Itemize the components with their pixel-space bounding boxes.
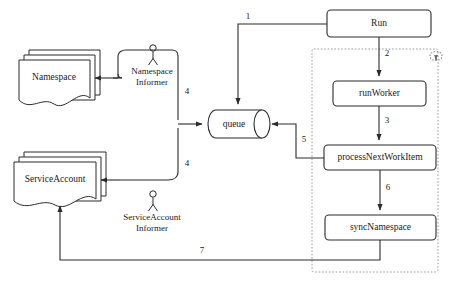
edge-4-serviceaccount-label: 4 [185, 158, 190, 168]
queue-label: queue [223, 119, 246, 129]
loop-arrow-icon [430, 52, 442, 61]
edge-2-label: 2 [385, 48, 390, 58]
flow-diagram: Namespace ServiceAccount Namespace Infor… [0, 0, 454, 283]
serviceaccount-informer: ServiceAccount Informer [120, 128, 181, 233]
edge-4-namespace-label: 4 [185, 86, 190, 96]
syncnamespace-label: syncNamespace [350, 222, 411, 232]
namespace-store: Namespace [19, 50, 100, 106]
runworker-label: runWorker [359, 88, 401, 98]
run: Run [327, 10, 431, 37]
namespace-informer-label-line1: Namespace [131, 66, 172, 76]
namespace-informer-actor-icon [149, 45, 158, 65]
diagram-canvas: Namespace ServiceAccount Namespace Infor… [0, 0, 454, 283]
serviceaccount-informer-label-line2: Informer [136, 223, 168, 233]
namespace-informer-label-line2: Informer [136, 77, 168, 87]
serviceaccount-store-label: ServiceAccount [25, 174, 86, 184]
edge-6-label: 6 [386, 182, 391, 192]
syncnamespace: syncNamespace [325, 215, 436, 240]
namespace-informer: Namespace Informer [113, 45, 178, 120]
edge-3-label: 3 [385, 115, 390, 125]
processnextworkitem-label: processNextWorkItem [337, 152, 423, 162]
processnextworkitem: processNextWorkItem [324, 145, 436, 170]
edge-1 [238, 24, 327, 104]
edge-5-label: 5 [302, 134, 307, 144]
edge-7-label: 7 [200, 245, 205, 255]
serviceaccount-informer-label-line1: ServiceAccount [123, 212, 181, 222]
edge-5 [272, 124, 324, 158]
serviceaccount-store: ServiceAccount [14, 152, 106, 207]
namespace-store-label: Namespace [32, 72, 76, 82]
run-label: Run [371, 18, 387, 28]
serviceaccount-informer-actor-icon [149, 191, 158, 211]
edge-1-label: 1 [246, 11, 251, 21]
queue: queue [208, 110, 270, 138]
runworker: runWorker [333, 81, 426, 106]
